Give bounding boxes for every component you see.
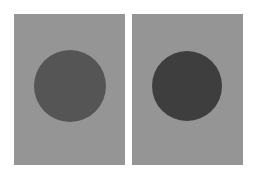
left-circle (34, 50, 106, 122)
left-panel (14, 14, 125, 165)
right-panel (132, 14, 243, 165)
right-circle (152, 51, 222, 121)
